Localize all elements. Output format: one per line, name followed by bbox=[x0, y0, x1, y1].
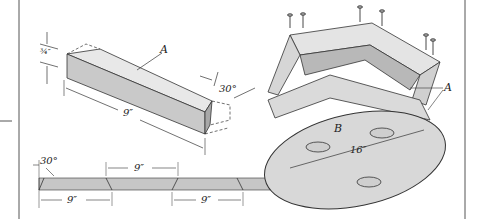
length-label: 9″ bbox=[123, 108, 133, 118]
angle-label: 30° bbox=[219, 84, 237, 94]
part-a-label: A bbox=[160, 44, 168, 55]
layout-dim-bottom-right: 9″ bbox=[201, 195, 211, 205]
layout-angle-label: 30° bbox=[40, 156, 58, 166]
frame-a-label: A bbox=[444, 82, 452, 93]
layout-dim-bottom-left: 9″ bbox=[67, 195, 77, 205]
diameter-label: 16″ bbox=[350, 145, 366, 155]
diagram-svg bbox=[0, 0, 478, 219]
base-b-label: B bbox=[334, 123, 342, 134]
diagram-canvas: A ¾″ 9″ 30° 30° 9″ 9″ 9″ A B 16″ bbox=[0, 0, 478, 219]
layout-dim-top: 9″ bbox=[134, 163, 144, 173]
assembly-illustration bbox=[255, 6, 454, 219]
thickness-label: ¾″ bbox=[40, 48, 51, 56]
